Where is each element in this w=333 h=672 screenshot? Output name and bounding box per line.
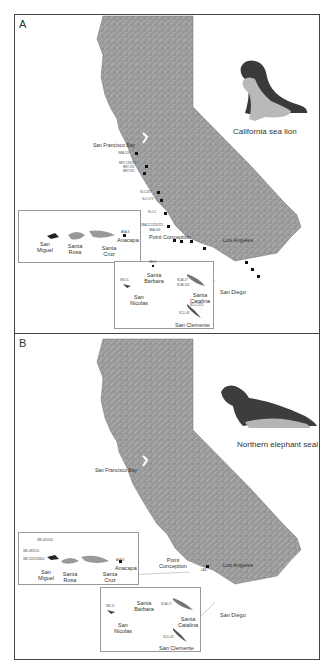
island-label: San Miguel	[35, 569, 57, 581]
species-label: Northern elephant seal	[237, 440, 318, 449]
southern-channel-islands-inset: SNI-11 SCAI-17 SCLI-43 Santa Barbara San…	[100, 587, 201, 652]
place-label: Los Angeles	[223, 237, 253, 243]
place-label: San Francisco Bay	[95, 467, 137, 473]
place-label: Los Angeles	[223, 562, 253, 568]
site-label: SBA-506	[149, 229, 160, 232]
island-label: Santa Barbara	[141, 272, 167, 284]
site-label: SCLI-43	[163, 636, 173, 639]
island-label: Santa Catalina	[187, 292, 213, 304]
sea-lion-illustration	[225, 55, 313, 125]
site-label: ANA-8	[116, 559, 124, 562]
site-label: SMA-119	[118, 152, 129, 155]
site-label: SNI-11	[106, 605, 115, 608]
site-label: LAN-	[201, 569, 207, 572]
site-label: SCAI-17	[177, 279, 188, 282]
island-label: Santa Cruz	[97, 245, 121, 257]
northern-channel-islands-inset: San Miguel Santa Rosa Santa Cruz Anacapa…	[18, 210, 141, 263]
site-label: SCAI-17	[161, 603, 172, 606]
site-label: SCAI-133	[177, 284, 189, 287]
elephant-seal-illustration	[215, 382, 320, 432]
panel-b-elephant-seal-map: B Northern elephant seal San Francisco B…	[14, 333, 320, 660]
site-label: SMI-485/510	[23, 550, 39, 553]
island-label: Anacapa	[117, 237, 139, 243]
island-label: San Clemente	[175, 322, 210, 328]
site-label: SMI-405/401	[37, 539, 53, 542]
site-label: ANA-8	[121, 231, 129, 234]
island-label: San Miguel	[33, 241, 57, 253]
site-label: SLO-179	[142, 198, 153, 201]
site-label: SMI-525/528/602	[23, 558, 44, 561]
site-label: SBI-8	[149, 261, 156, 264]
place-label: San Diego	[220, 612, 246, 618]
island-label: Santa Rosa	[59, 571, 81, 583]
island-label: San Clemente	[159, 645, 194, 651]
island-label: Santa Catalina	[175, 616, 201, 628]
panel-a-sea-lion-map: A	[14, 14, 320, 334]
place-label: San Diego	[220, 289, 246, 295]
site-label: SBA-212/224/225	[141, 224, 163, 227]
place-label: Point Conception	[155, 557, 191, 569]
southern-channel-islands-inset: SBI-8 SNI-11 SCAI-17 SCAI-133 SCLI-1215 …	[114, 261, 214, 329]
island-label: San Nicolas	[127, 294, 151, 306]
site-label: SCLI-43	[179, 312, 189, 315]
island-label: Anacapa	[115, 565, 137, 571]
site-label: SCLI-1215	[190, 304, 203, 307]
site-label: SLO-2	[148, 211, 156, 214]
island-label: Santa Cruz	[99, 571, 121, 583]
northern-channel-islands-inset: SMI-405/401 SMI-485/510 SMI-525/528/602 …	[18, 532, 139, 585]
island-label: Santa Rosa	[63, 243, 87, 255]
site-label: SLO-267	[140, 191, 151, 194]
place-label: Point Conception	[149, 234, 191, 240]
species-label: California sea lion	[233, 127, 297, 136]
site-label: MNT-931	[123, 170, 135, 173]
island-label: San Nicolas	[111, 622, 135, 634]
place-label: San Francisco Bay	[93, 142, 135, 148]
site-label: SNI-11	[120, 279, 129, 282]
island-label: Santa Barbara	[131, 600, 157, 612]
